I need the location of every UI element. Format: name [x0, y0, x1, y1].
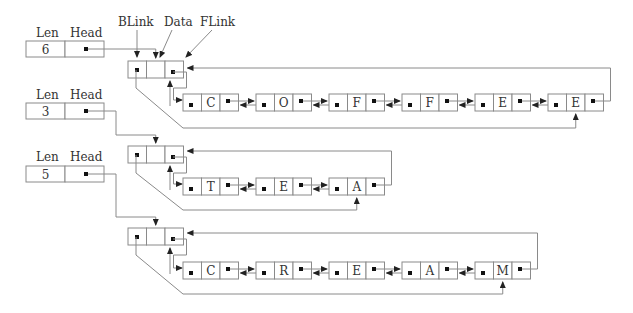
head-pointer-icon — [84, 172, 88, 176]
node-data: E — [571, 96, 580, 110]
blink-pointer-icon — [481, 103, 485, 107]
len-label: Len — [36, 150, 59, 164]
header-node-cell — [165, 61, 184, 78]
node-data: O — [279, 96, 289, 110]
node-data: T — [207, 180, 215, 194]
flink-pointer-icon — [372, 183, 376, 187]
list-node: F — [402, 94, 481, 111]
node-data: A — [351, 180, 361, 194]
flink-pointer-icon — [591, 99, 595, 103]
len-label: Len — [36, 26, 59, 40]
list-node: E — [475, 94, 554, 111]
flink-pointer-icon — [445, 99, 449, 103]
blink-pointer-icon — [189, 187, 193, 191]
list-node: E — [548, 94, 604, 111]
blink-pointer-icon — [335, 271, 339, 275]
header-node-cell — [165, 146, 184, 163]
flink-label: FLink — [200, 15, 236, 29]
list-node: M — [475, 262, 531, 279]
list-node: A — [329, 178, 385, 195]
list-3: LenHead5CREAM — [26, 150, 538, 294]
len-label: Len — [36, 88, 59, 102]
node-data: F — [353, 96, 361, 110]
head-pointer-icon — [84, 47, 88, 51]
node-data: M — [497, 264, 509, 278]
flink-pointer-icon — [372, 267, 376, 271]
head-label: Head — [70, 26, 103, 40]
len-value: 6 — [42, 43, 50, 57]
head-pointer-icon — [84, 109, 88, 113]
list-node: T — [183, 178, 262, 195]
node-data: A — [424, 264, 434, 278]
blink-pointer-icon — [262, 103, 266, 107]
header-node-cell — [147, 146, 166, 163]
blink-pointer-icon — [262, 271, 266, 275]
node-data: C — [206, 96, 215, 110]
flink-pointer-icon — [299, 99, 303, 103]
node-data: E — [498, 96, 507, 110]
node-data: R — [279, 264, 289, 278]
len-value: 5 — [42, 168, 50, 182]
blink-pointer-icon — [262, 187, 266, 191]
head-label: Head — [70, 150, 103, 164]
list-node: E — [256, 178, 335, 195]
blink-pointer-icon — [554, 103, 558, 107]
data-label: Data — [164, 15, 193, 29]
header-node-cell — [147, 228, 166, 245]
list-node: C — [183, 94, 262, 111]
flink-pointer-icon — [226, 267, 230, 271]
flink-pointer-icon — [226, 183, 230, 187]
list-node: R — [256, 262, 335, 279]
flink-pointer-icon — [226, 99, 230, 103]
node-data: C — [206, 264, 215, 278]
node-data: F — [426, 96, 434, 110]
blink-pointer-icon — [189, 103, 193, 107]
node-data: E — [279, 180, 288, 194]
header-node-cell — [165, 228, 184, 245]
list-node: F — [329, 94, 408, 111]
len-value: 3 — [42, 105, 50, 119]
head-label: Head — [70, 88, 103, 102]
blink-label: BLink — [118, 15, 154, 29]
flink-pointer-icon — [372, 99, 376, 103]
list-node: C — [183, 262, 262, 279]
list-1: LenHead6COFFEE — [26, 26, 611, 128]
list-node: A — [402, 262, 481, 279]
flink-pointer-icon — [518, 99, 522, 103]
flink-pointer-icon — [299, 183, 303, 187]
blink-pointer-icon — [408, 103, 412, 107]
blink-pointer-icon — [481, 271, 485, 275]
flink-pointer-arrow — [186, 30, 212, 57]
blink-pointer-icon — [335, 103, 339, 107]
data-pointer-arrow — [160, 30, 172, 57]
blink-pointer-icon — [189, 271, 193, 275]
flink-pointer-icon — [445, 267, 449, 271]
blink-pointer-icon — [408, 271, 412, 275]
list-node: O — [256, 94, 335, 111]
header-node-cell — [147, 61, 166, 78]
flink-pointer-icon — [518, 267, 522, 271]
node-data: E — [352, 264, 361, 278]
flink-pointer-icon — [299, 267, 303, 271]
list-node: E — [329, 262, 408, 279]
blink-pointer-icon — [335, 187, 339, 191]
linked-list-diagram: BLink Data FLink LenHead6COFFEELenHead3T… — [0, 0, 633, 313]
